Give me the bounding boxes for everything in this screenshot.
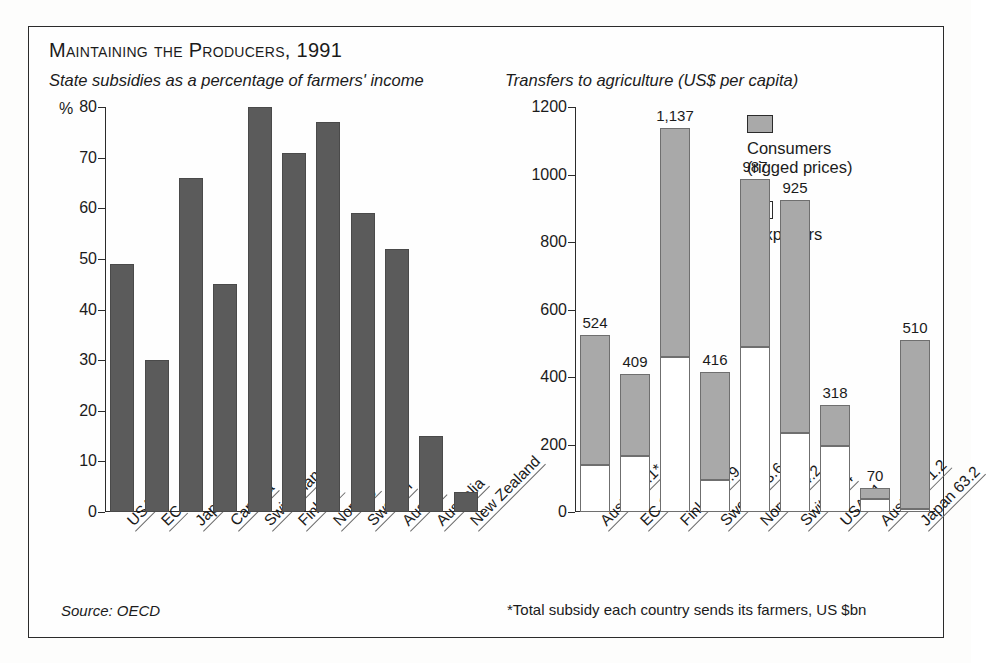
right-y-tick-mark — [568, 175, 575, 176]
right-y-tick-mark — [568, 242, 575, 243]
bar-left — [419, 436, 443, 512]
bar-value-label: 1,137 — [646, 108, 704, 123]
right-y-tick-label: 0 — [513, 504, 567, 520]
bar-segment-consumers — [820, 405, 850, 446]
bar-left — [385, 249, 409, 512]
left-y-tick-mark — [98, 310, 105, 311]
bar-segment-consumers — [860, 488, 890, 499]
bar-value-label: 70 — [846, 468, 904, 483]
bar-segment-consumers — [740, 179, 770, 347]
bar-left — [179, 178, 203, 512]
left-y-tick-label: 60 — [53, 200, 97, 216]
bar-left — [282, 153, 306, 512]
bar-segment-taxpayers — [740, 347, 770, 512]
left-y-tick-mark — [98, 411, 105, 412]
bar-value-label: 416 — [686, 352, 744, 367]
left-y-tick-label: 30 — [53, 352, 97, 368]
left-y-tick-label: 20 — [53, 403, 97, 419]
bar-segment-consumers — [660, 128, 690, 356]
right-y-tick-label: 200 — [513, 437, 567, 453]
figure-frame: Maintaining the Producers, 1991 State su… — [28, 26, 944, 638]
left-y-tick-mark — [98, 461, 105, 462]
bar-left — [316, 122, 340, 512]
right-y-tick-mark — [568, 512, 575, 513]
bar-value-label: 318 — [806, 385, 864, 400]
bar-value-label: 409 — [606, 354, 664, 369]
left-y-tick-label: 40 — [53, 302, 97, 318]
right-y-tick-mark — [568, 107, 575, 108]
bar-segment-consumers — [620, 374, 650, 456]
bar-left — [351, 213, 375, 512]
bar-segment-taxpayers — [580, 465, 610, 512]
bar-segment-taxpayers — [620, 456, 650, 512]
right-y-tick-mark — [568, 377, 575, 378]
right-y-tick-mark — [568, 310, 575, 311]
left-chart: % 01020304050607080USAECJapanCanadaSwitz… — [29, 27, 499, 639]
left-y-tick-mark — [98, 208, 105, 209]
legend-swatch-consumers — [747, 115, 773, 133]
bar-segment-consumers — [900, 340, 930, 509]
bar-left — [145, 360, 169, 512]
left-y-tick-mark — [98, 259, 105, 260]
right-y-tick-label: 800 — [513, 234, 567, 250]
right-footnote: *Total subsidy each country sends its fa… — [507, 601, 866, 618]
bar-segment-taxpayers — [660, 357, 690, 512]
left-y-tick-mark — [98, 512, 105, 513]
bar-segment-consumers — [700, 372, 730, 480]
right-y-tick-mark — [568, 445, 575, 446]
bar-left — [213, 284, 237, 512]
bar-segment-taxpayers — [780, 433, 810, 512]
right-y-tick-label: 600 — [513, 302, 567, 318]
left-y-tick-label: 10 — [53, 453, 97, 469]
bar-value-label: 510 — [886, 320, 944, 335]
left-y-tick-mark — [98, 107, 105, 108]
left-y-tick-label: 80 — [53, 99, 97, 115]
right-y-tick-label: 1000 — [513, 167, 567, 183]
bar-value-label: 524 — [566, 315, 624, 330]
left-y-tick-label: 50 — [53, 251, 97, 267]
left-y-tick-mark — [98, 360, 105, 361]
left-y-tick-label: 0 — [53, 504, 97, 520]
right-y-tick-label: 400 — [513, 369, 567, 385]
right-chart: Consumers(rigged prices)Taxpayers 020040… — [499, 27, 945, 639]
bar-value-label: 925 — [766, 180, 824, 195]
bar-value-label: 987 — [726, 159, 784, 174]
bar-left — [248, 107, 272, 512]
left-y-tick-label: 70 — [53, 150, 97, 166]
right-y-tick-label: 1200 — [513, 99, 567, 115]
left-y-tick-mark — [98, 158, 105, 159]
source-note: Source: OECD — [61, 602, 160, 619]
bar-left — [110, 264, 134, 512]
